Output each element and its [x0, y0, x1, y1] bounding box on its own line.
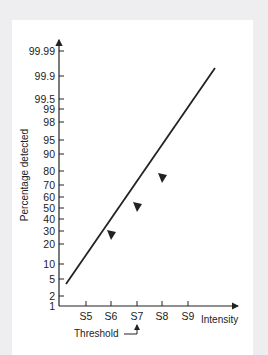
line-markers — [107, 173, 167, 240]
y-tick-label: 1 — [49, 300, 55, 312]
y-tick-label: 5 — [49, 273, 55, 285]
x-tick-label: S6 — [105, 310, 118, 322]
y-tick-label: 99 — [43, 103, 55, 115]
x-axis-label: Intensity — [201, 314, 238, 325]
marker-s6 — [107, 230, 116, 240]
y-axis-label: Percentage detected — [19, 129, 30, 221]
x-tick-label: S9 — [182, 310, 195, 322]
psychometric-line — [66, 68, 215, 284]
y-tick-label: 80 — [43, 165, 55, 177]
x-tick-label: S5 — [80, 310, 93, 322]
threshold-label: Threshold — [74, 328, 118, 339]
y-tick-label: 98 — [43, 116, 55, 128]
y-ticks — [59, 51, 64, 296]
y-tick-label: 95 — [43, 134, 55, 146]
y-tick-label: 10 — [43, 258, 55, 270]
threshold-arrow — [124, 325, 137, 334]
marker-s8 — [158, 173, 167, 183]
x-tick-label: S7 — [131, 310, 144, 322]
y-tick-label: 30 — [43, 225, 55, 237]
y-tick-label: 90 — [43, 148, 55, 160]
y-tick-label: 99.99 — [29, 45, 55, 57]
marker-s7 — [133, 202, 142, 212]
y-tick-label: 99.9 — [35, 70, 56, 82]
x-tick-label: S8 — [156, 310, 169, 322]
y-tick-label: 40 — [43, 213, 55, 225]
y-tick-label: 70 — [43, 179, 55, 191]
chart-svg: 99.99 99.9 99.5 99 98 95 90 80 70 60 50 … — [0, 0, 268, 355]
x-ticks — [86, 301, 188, 306]
y-tick-label: 20 — [43, 238, 55, 250]
